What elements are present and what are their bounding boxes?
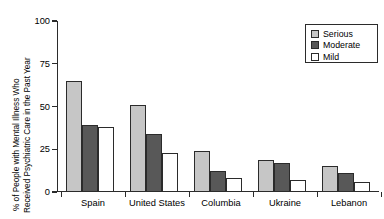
y-tick-100 <box>52 20 57 21</box>
y-tick-75 <box>52 63 57 64</box>
bar-columbia-mild <box>226 178 242 192</box>
legend-swatch-mild <box>311 53 319 61</box>
y-tick-label-0: 0 <box>14 187 50 197</box>
x-tick-0 <box>61 192 62 197</box>
legend-label-serious: Serious <box>323 29 353 39</box>
bar-ukraine-serious <box>258 160 274 192</box>
bar-lebanon-mild <box>354 182 370 192</box>
y-tick-label-25: 25 <box>14 144 50 154</box>
legend: SeriousModerateMild <box>305 24 378 63</box>
legend-swatch-moderate <box>311 41 319 49</box>
y-axis-line <box>57 21 58 192</box>
legend-item-serious: Serious <box>311 28 377 39</box>
bar-columbia-moderate <box>210 171 226 192</box>
y-tick-label-100: 100 <box>14 16 50 26</box>
y-tick-0 <box>52 191 57 192</box>
category-label-ukraine: Ukraine <box>269 198 301 208</box>
bar-lebanon-moderate <box>338 173 354 192</box>
legend-label-moderate: Moderate <box>323 40 360 50</box>
bar-united-states-serious <box>130 105 146 192</box>
bar-spain-mild <box>98 127 114 192</box>
bar-united-states-moderate <box>146 134 162 192</box>
y-tick-50 <box>52 106 57 107</box>
category-label-united-states: United States <box>129 198 185 208</box>
y-tick-label-50: 50 <box>14 102 50 112</box>
bar-united-states-mild <box>162 153 178 192</box>
legend-item-mild: Mild <box>311 51 377 62</box>
x-tick-4 <box>317 192 318 197</box>
bar-spain-serious <box>66 81 82 192</box>
x-tick-2 <box>189 192 190 197</box>
bar-ukraine-mild <box>290 180 306 192</box>
bar-spain-moderate <box>82 125 98 192</box>
category-label-columbia: Columbia <box>201 198 240 208</box>
bar-lebanon-serious <box>322 166 338 192</box>
y-tick-label-75: 75 <box>14 59 50 69</box>
x-tick-1 <box>125 192 126 197</box>
bar-columbia-serious <box>194 151 210 192</box>
legend-item-moderate: Moderate <box>311 40 377 51</box>
category-label-spain: Spain <box>81 198 105 208</box>
x-tick-3 <box>253 192 254 197</box>
legend-swatch-serious <box>311 30 319 38</box>
category-label-lebanon: Lebanon <box>331 198 367 208</box>
y-tick-25 <box>52 149 57 150</box>
legend-label-mild: Mild <box>323 52 339 62</box>
x-tick-5 <box>381 192 382 197</box>
bar-ukraine-moderate <box>274 163 290 192</box>
bar-chart-figure: % of People with Mental Illness Who Rece… <box>0 0 384 219</box>
